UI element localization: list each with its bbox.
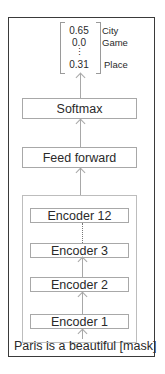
feed-forward-label: Feed forward (43, 151, 117, 165)
label-city: City (102, 25, 118, 37)
feed-forward-box: Feed forward (22, 147, 137, 168)
encoder-1-label: Encoder 1 (51, 315, 108, 329)
label-place: Place (104, 59, 128, 71)
encoder-2-label: Encoder 2 (51, 278, 108, 292)
encoder-3-box: Encoder 3 (30, 243, 129, 258)
vector-right-bracket (96, 22, 101, 74)
input-sentence: Paris is a beautiful [mask] (14, 339, 156, 353)
encoder-2-box: Encoder 2 (30, 277, 129, 292)
probability-city: 0.65 (64, 25, 94, 37)
softmax-box: Softmax (22, 98, 137, 119)
softmax-label: Softmax (57, 102, 103, 116)
label-game: Game (102, 37, 128, 49)
probability-place: 0.31 (64, 59, 94, 71)
encoder-12-box: Encoder 12 (30, 208, 129, 223)
ellipsis-connector (82, 223, 83, 243)
encoder-12-label: Encoder 12 (48, 209, 112, 223)
encoder-3-label: Encoder 3 (51, 244, 108, 258)
probability-ellipsis: ⋮ (64, 47, 94, 57)
encoder-1-box: Encoder 1 (30, 314, 129, 329)
